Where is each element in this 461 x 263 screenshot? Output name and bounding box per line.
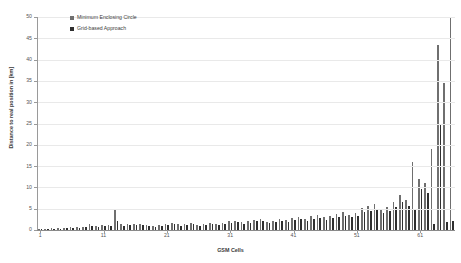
x-axis-title: GSM Cells xyxy=(0,248,461,253)
legend-swatch-icon xyxy=(70,27,74,31)
x-axis-tick-mark xyxy=(167,230,168,233)
x-axis-tick-mark xyxy=(40,230,41,233)
y-axis-tick-mark xyxy=(34,187,37,188)
y-axis-tick-mark xyxy=(34,60,37,61)
x-axis-tick-label: 31 xyxy=(227,233,233,238)
x-axis-tick-mark xyxy=(230,230,231,233)
y-axis-tick-mark xyxy=(34,166,37,167)
x-axis-tick-label: 1 xyxy=(39,233,42,238)
y-axis-ticks: 05101520253035404550 xyxy=(0,0,461,263)
x-axis-tick-label: 41 xyxy=(291,233,297,238)
y-axis-tick-label: 10 xyxy=(6,185,32,190)
x-axis-tick-mark xyxy=(104,230,105,233)
y-axis-tick-label: 50 xyxy=(6,14,32,19)
legend-swatch-icon xyxy=(70,16,74,20)
y-axis-tick-mark xyxy=(34,209,37,210)
y-axis-tick-mark xyxy=(34,124,37,125)
x-axis-tick-label: 21 xyxy=(164,233,170,238)
y-axis-tick-label: 45 xyxy=(6,36,32,41)
x-axis-tick-label: 61 xyxy=(417,233,423,238)
y-axis-tick-mark xyxy=(34,17,37,18)
y-axis-tick-mark xyxy=(34,102,37,103)
y-axis-tick-label: 0 xyxy=(6,227,32,232)
chart-legend: Minimum Enclosing Circle Grid-based Appr… xyxy=(70,14,137,37)
legend-label: Grid-based Approach xyxy=(77,26,126,31)
legend-label: Minimum Enclosing Circle xyxy=(77,15,137,20)
x-axis-tick-mark xyxy=(294,230,295,233)
x-axis-tick-mark xyxy=(357,230,358,233)
y-axis-tick-mark xyxy=(34,81,37,82)
x-axis-tick-label: 11 xyxy=(101,233,106,238)
y-axis-tick-mark xyxy=(34,230,37,231)
legend-item-grid-based-approach: Grid-based Approach xyxy=(70,26,137,33)
y-axis-tick-mark xyxy=(34,38,37,39)
y-axis-tick-label: 5 xyxy=(6,206,32,211)
y-axis-tick-mark xyxy=(34,145,37,146)
x-axis-tick-label: 51 xyxy=(354,233,360,238)
y-axis-title: Distance to real position in [km] xyxy=(9,48,14,168)
legend-item-minimum-enclosing-circle: Minimum Enclosing Circle xyxy=(70,14,137,21)
x-axis-tick-mark xyxy=(420,230,421,233)
chart-container: 05101520253035404550 1112131415161 Dista… xyxy=(0,0,461,263)
